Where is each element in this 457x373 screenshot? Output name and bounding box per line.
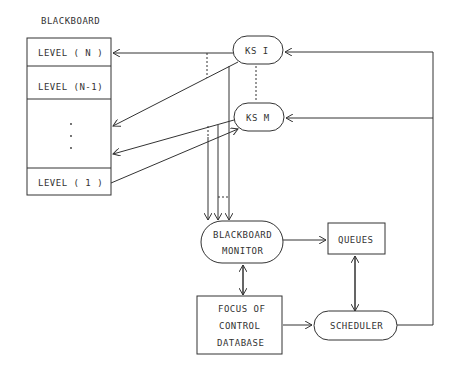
level-1: LEVEL ( 1 ) — [38, 178, 103, 188]
ellipsis-dot — [70, 147, 72, 149]
svg-text:FOCUS OF: FOCUS OF — [218, 304, 265, 314]
ks-i-node: KS I — [233, 36, 283, 64]
blackboard-monitor-node: BLACKBOARD MONITOR — [201, 221, 283, 263]
blackboard-title: BLACKBOARD — [41, 16, 100, 26]
blackboard-container — [27, 38, 111, 195]
level-n-minus-1: LEVEL (N-1) — [38, 82, 103, 92]
blackboard-levels: LEVEL ( N ) LEVEL (N-1) LEVEL ( 1 ) — [27, 38, 111, 195]
ks-m-node: KS M — [234, 103, 284, 131]
queues-node: QUEUES — [328, 223, 385, 254]
ellipsis-dot — [70, 123, 72, 125]
svg-text:CONTROL: CONTROL — [219, 321, 260, 331]
svg-text:DATABASE: DATABASE — [217, 338, 264, 348]
svg-text:QUEUES: QUEUES — [338, 235, 374, 245]
blackboard-architecture-diagram: BLACKBOARD LEVEL ( N ) LEVEL (N-1) LEVEL… — [0, 0, 457, 373]
svg-text:MONITOR: MONITOR — [222, 246, 264, 256]
ellipsis-dot — [70, 135, 72, 137]
focus-of-control-database-node: FOCUS OF CONTROL DATABASE — [197, 296, 282, 354]
scheduler-node: SCHEDULER — [314, 311, 397, 340]
level-n: LEVEL ( N ) — [38, 48, 103, 58]
svg-text:BLACKBOARD: BLACKBOARD — [213, 230, 272, 240]
svg-text:SCHEDULER: SCHEDULER — [330, 321, 383, 331]
svg-text:KS M: KS M — [246, 113, 270, 123]
svg-text:KS I: KS I — [245, 46, 269, 56]
